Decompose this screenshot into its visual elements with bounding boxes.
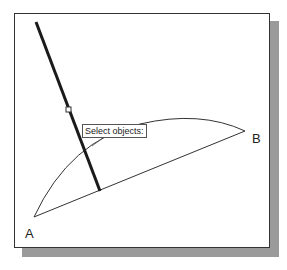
point-label-b: B (252, 132, 261, 145)
pickbox-cursor-icon (66, 107, 71, 112)
chord-line-ab[interactable] (34, 131, 245, 217)
point-label-a: A (25, 227, 34, 240)
select-objects-tooltip: Select objects: (82, 124, 147, 138)
tooltip-leader (92, 137, 104, 146)
